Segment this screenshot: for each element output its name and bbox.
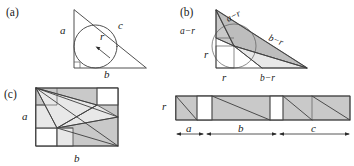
label-bottom-right-b: b−r xyxy=(260,73,275,83)
dimension-row xyxy=(176,132,350,136)
inner-square-b xyxy=(216,46,234,68)
label-leg-b: b xyxy=(104,68,110,80)
panel-c: (c) a b xyxy=(0,80,172,166)
label-left-lower-b: r xyxy=(204,48,209,60)
right-angle-marker-a xyxy=(74,62,80,68)
label-strip-segment-a: a xyxy=(186,122,192,134)
label-radius-r: r xyxy=(100,30,105,42)
corner-cell-top-right-c xyxy=(97,88,118,105)
dimension-arrow-c-left xyxy=(279,132,284,136)
corner-cell-bottom-left-c xyxy=(36,128,57,146)
label-side-b-c: b xyxy=(74,152,80,164)
triangle-outline-a xyxy=(74,10,146,68)
label-leg-a: a xyxy=(60,24,66,36)
label-bottom-left-b: r xyxy=(222,71,227,83)
panel-a: (a) a b c r xyxy=(0,0,180,84)
dimension-arrow-b-left xyxy=(206,132,211,136)
label-left-upper-b: a−r xyxy=(180,26,195,36)
panel-b: (b) a−r a−r b−r r r b−r xyxy=(176,0,354,84)
panel-b-label: (b) xyxy=(180,6,194,19)
dimension-arrow-c-right xyxy=(345,132,350,136)
label-top-diagonal-b: a−r xyxy=(224,8,242,24)
strip-gap-2 xyxy=(270,96,283,120)
panel-a-label: (a) xyxy=(6,6,19,19)
label-hypotenuse-c: c xyxy=(118,19,123,31)
dimension-arrow-a-left xyxy=(176,132,181,136)
dimension-arrow-a-right xyxy=(199,132,204,136)
figure-root: (a) a b c r (b) a−r xyxy=(0,0,354,166)
panel-strip: r a xyxy=(160,88,354,166)
label-strip-height-r: r xyxy=(162,100,167,112)
label-strip-segment-c: c xyxy=(311,122,316,134)
strip-gap-1 xyxy=(197,96,212,120)
panel-c-label: (c) xyxy=(4,88,17,101)
dimension-arrow-b-right xyxy=(272,132,277,136)
label-strip-segment-b: b xyxy=(238,122,244,134)
label-side-a-c: a xyxy=(22,110,28,122)
